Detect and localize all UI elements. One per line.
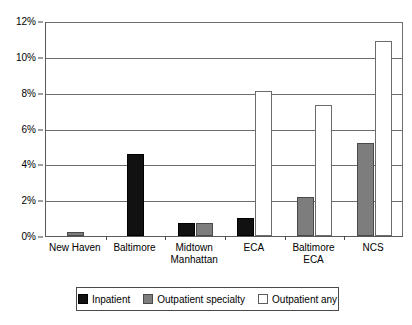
y-axis-tick-mark bbox=[38, 237, 43, 238]
bar bbox=[67, 232, 84, 236]
y-axis-tick-label: 2% bbox=[22, 196, 36, 206]
y-axis-tick-label: 6% bbox=[22, 125, 36, 135]
bar bbox=[255, 91, 272, 236]
x-axis-tick-mark bbox=[285, 236, 286, 240]
legend-label: Outpatient any bbox=[272, 294, 337, 305]
y-axis-tick-mark bbox=[38, 201, 43, 202]
bar-group bbox=[106, 22, 166, 236]
x-axis: New HavenBaltimoreMidtown ManhattanECABa… bbox=[45, 242, 403, 278]
x-axis-tick-mark bbox=[165, 236, 166, 240]
legend-label: Inpatient bbox=[92, 294, 130, 305]
y-axis-tick-label: 8% bbox=[22, 89, 36, 99]
x-axis-tick-label: New Haven bbox=[49, 242, 101, 254]
bar-chart: 0%2%4%6%8%10%12% New HavenBaltimoreMidto… bbox=[0, 0, 412, 325]
x-axis-tick-label: Midtown Manhattan bbox=[171, 242, 218, 266]
bar-group bbox=[46, 22, 106, 236]
y-axis-tick-label: 10% bbox=[16, 53, 36, 63]
x-axis-tick-mark bbox=[344, 236, 345, 240]
legend-swatch-icon bbox=[143, 294, 153, 304]
bar bbox=[357, 143, 374, 236]
bar bbox=[237, 218, 254, 236]
legend-item: Inpatient bbox=[78, 294, 130, 305]
x-axis-tick-label: Baltimore bbox=[113, 242, 155, 254]
plot-wrapper: 0%2%4%6%8%10%12% New HavenBaltimoreMidto… bbox=[0, 0, 412, 280]
bar bbox=[178, 223, 195, 236]
y-axis-tick-mark bbox=[38, 22, 43, 23]
x-axis-tick-label: Baltimore ECA bbox=[292, 242, 334, 266]
y-axis: 0%2%4%6%8%10%12% bbox=[0, 0, 44, 280]
y-axis-tick-mark bbox=[38, 165, 43, 166]
bar bbox=[315, 105, 332, 236]
legend-label: Outpatient specialty bbox=[157, 294, 245, 305]
y-axis-tick-label: 4% bbox=[22, 160, 36, 170]
y-axis-tick-mark bbox=[38, 57, 43, 58]
bar-group bbox=[344, 22, 404, 236]
legend-item: Outpatient specialty bbox=[143, 294, 245, 305]
bar-group bbox=[165, 22, 225, 236]
x-axis-tick-label: NCS bbox=[363, 242, 384, 254]
bar-group bbox=[285, 22, 345, 236]
x-axis-tick-mark bbox=[106, 236, 107, 240]
y-axis-tick-mark bbox=[38, 129, 43, 130]
bar-group bbox=[225, 22, 285, 236]
bar bbox=[375, 41, 392, 236]
chart-legend: InpatientOutpatient specialtyOutpatient … bbox=[76, 287, 339, 311]
plot-area bbox=[45, 22, 403, 237]
y-axis-tick-label: 0% bbox=[22, 232, 36, 242]
bar bbox=[196, 223, 213, 236]
legend-swatch-icon bbox=[78, 294, 88, 304]
y-axis-tick-label: 12% bbox=[16, 17, 36, 27]
x-axis-tick-mark bbox=[225, 236, 226, 240]
legend-swatch-icon bbox=[258, 294, 268, 304]
bar bbox=[127, 154, 144, 236]
legend-item: Outpatient any bbox=[258, 294, 337, 305]
x-axis-tick-label: ECA bbox=[244, 242, 265, 254]
bar bbox=[297, 197, 314, 236]
y-axis-tick-mark bbox=[38, 93, 43, 94]
